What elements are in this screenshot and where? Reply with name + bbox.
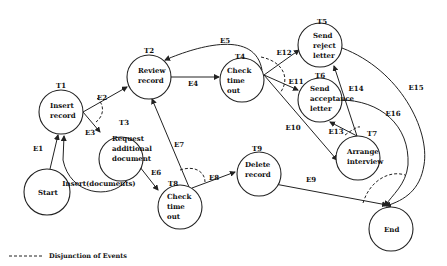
node-label: Arrange (346, 147, 379, 156)
node-label: document (112, 154, 152, 163)
node-label: additional (112, 144, 152, 153)
node-tag: T3 (119, 118, 129, 127)
edge-label-e9: E9 (306, 175, 316, 184)
edge-label-e13: E13 (328, 127, 343, 136)
edge-label-e12: E12 (276, 48, 291, 57)
node-label: out (167, 212, 181, 221)
node-label: record (138, 76, 164, 85)
edge-label-e2: E2 (97, 93, 107, 102)
node-tag: T2 (144, 46, 154, 55)
edge-label-e6: E6 (151, 168, 161, 177)
node-t6: T6 Send acceptance letter (298, 71, 355, 122)
node-t3: T3 Request additional document (99, 118, 152, 181)
node-label: Review (138, 66, 166, 75)
edge-label-e5: E5 (220, 36, 230, 45)
node-tag: T7 (367, 129, 377, 138)
node-label: Insert (50, 101, 74, 110)
node-t2: T2 Review record (127, 46, 171, 99)
node-label: Send (310, 84, 330, 93)
edge-label-e10: E10 (285, 123, 300, 132)
node-label: Start (38, 188, 59, 197)
node-label: End (384, 225, 399, 234)
node-label: Delete (245, 160, 271, 169)
node-t7: T7 Arrange interview (336, 129, 384, 180)
edge-label-e15: E15 (408, 83, 423, 92)
node-label: time (227, 76, 245, 85)
node-label: Send (313, 31, 333, 40)
node-label: out (227, 86, 241, 95)
node-tag: T6 (315, 71, 325, 80)
workflow-diagram: T1 Insert record T2 Review record T3 Req… (0, 0, 447, 266)
node-label: acceptance (310, 94, 355, 103)
node-t5: T5 Send reject letter (298, 17, 342, 67)
node-label: reject (313, 41, 336, 50)
node-tag: T5 (317, 17, 327, 26)
edge-e9 (275, 184, 387, 205)
legend-label: Disjunction of Events (49, 252, 127, 260)
node-label: Check (227, 66, 251, 75)
node-label: letter (310, 104, 332, 113)
edge-label-insert-documents: Insert(documents) (62, 179, 135, 188)
edge-label-e4: E4 (188, 79, 198, 88)
edge-label-e14: E14 (348, 84, 363, 93)
node-tag: T9 (252, 144, 262, 153)
node-start: Start (24, 169, 70, 215)
edge-label-e1: E1 (33, 144, 43, 153)
node-label: Request (112, 134, 145, 143)
node-label: letter (313, 51, 335, 60)
node-t1: T1 Insert record (39, 81, 83, 134)
node-tag: T1 (56, 81, 66, 90)
edge-label-e8: E8 (209, 173, 219, 182)
edge-label-e3: E3 (85, 128, 95, 137)
node-label: time (167, 202, 185, 211)
edge-label-e7: E7 (174, 140, 184, 149)
node-t9: T9 Delete record (237, 144, 281, 196)
node-label: record (245, 170, 271, 179)
node-label: interview (347, 157, 384, 166)
node-tag: T4 (235, 52, 245, 61)
edge-e1 (50, 135, 58, 169)
node-label: record (50, 111, 76, 120)
node-end: End (369, 207, 413, 251)
node-label: Check (167, 192, 191, 201)
node-t4: T4 Check time out (220, 52, 264, 102)
node-tag: T8 (168, 179, 178, 188)
edge-label-e11: E11 (288, 77, 303, 86)
edge-label-e16: E16 (385, 109, 400, 118)
legend: Disjunction of Events (9, 252, 127, 260)
